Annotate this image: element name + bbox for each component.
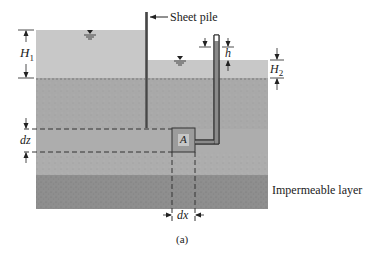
h1-label-sub: 1 [29, 53, 34, 63]
h-label: h [225, 46, 231, 61]
sheet-pile-label: Sheet pile [170, 10, 218, 25]
h2-label-main: H [270, 62, 279, 76]
h2-label-sub: 2 [279, 68, 284, 78]
element-a-label: A [180, 133, 187, 145]
h1-label: H1 [20, 45, 34, 63]
dz-label: dz [20, 133, 31, 148]
h1-label-main: H [20, 45, 29, 60]
downstream-water [148, 60, 268, 78]
dx-label: dx [177, 208, 188, 223]
flow-diagram: Sheet pile H1 h H2 dz A Impermeable laye… [0, 0, 369, 263]
impermeable-layer-label: Impermeable layer [272, 183, 362, 198]
diagram-graphics [0, 0, 369, 263]
figure-caption: (a) [176, 233, 188, 245]
h2-label: H2 [270, 62, 283, 78]
